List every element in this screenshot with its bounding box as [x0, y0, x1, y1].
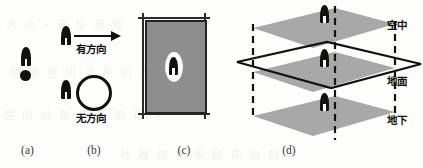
- circle-outline-icon: [76, 75, 112, 111]
- person-icon: [320, 5, 329, 23]
- person-leg-gap: [65, 38, 68, 45]
- crop-mark-top: [138, 17, 210, 19]
- arrow-head-icon: [111, 31, 121, 41]
- panel-cell-symbol: (c): [133, 0, 235, 168]
- person-leg-gap: [25, 59, 28, 66]
- person-leg-gap: [172, 68, 175, 75]
- panel-orientation: 有方向 无方向 (b): [55, 0, 133, 168]
- layer-label-air: 空中: [387, 17, 407, 32]
- person-icon: [21, 47, 31, 66]
- nondirectional-label: 无方向: [76, 110, 106, 125]
- person-icon: [320, 49, 329, 67]
- layer-label-ground: 地面: [387, 73, 407, 88]
- person-icon: [61, 80, 71, 99]
- panel-point-symbol: (a): [0, 0, 55, 168]
- person-leg-gap: [65, 92, 68, 99]
- dot-icon: [20, 70, 31, 81]
- person-icon: [169, 57, 178, 75]
- person-leg-gap: [323, 16, 326, 23]
- panel-vertical-layers: 空中 地面 地下 (d): [235, 0, 423, 168]
- layer-label-underground: 地下: [387, 112, 407, 127]
- directional-label: 有方向: [76, 41, 106, 56]
- figure-root: 大 小 • 定 位 有 效 物 体 空 间 关 系 的 表 达 空 间 分 布 …: [0, 0, 423, 168]
- panel-label-d: (d): [195, 144, 383, 156]
- person-leg-gap: [323, 104, 326, 111]
- person-leg-gap: [323, 60, 326, 67]
- crop-mark-left: [142, 13, 144, 119]
- person-icon: [320, 93, 329, 111]
- panel-label-a: (a): [0, 144, 55, 156]
- person-icon: [61, 26, 71, 45]
- arrow-right-icon: [74, 35, 112, 38]
- panel-label-b: (b): [55, 144, 133, 156]
